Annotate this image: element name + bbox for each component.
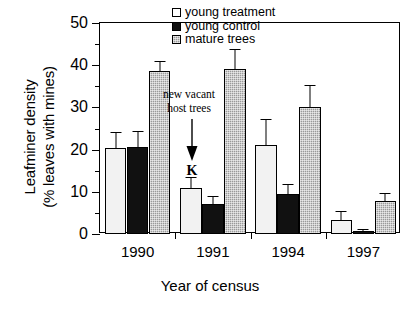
error-cap-young-treatment-1994 xyxy=(261,119,272,120)
bar-young-treatment-1997 xyxy=(331,220,353,234)
x-tick xyxy=(175,232,176,239)
error-bar-young-treatment-1994 xyxy=(266,119,267,144)
x-tick xyxy=(326,232,327,239)
legend-item-mature-trees: mature trees xyxy=(172,33,275,47)
x-tick xyxy=(251,232,252,239)
y-axis-title: Leafminer density (% leaves with mines) xyxy=(20,22,58,252)
y-tick-minor xyxy=(95,86,100,87)
error-cap-young-control-1990 xyxy=(132,131,143,132)
x-tick-label: 1991 xyxy=(196,243,229,260)
bar-mature-trees-1991 xyxy=(224,69,246,234)
error-bar-mature-trees-1991 xyxy=(234,49,235,68)
y-tick-minor xyxy=(95,129,100,130)
error-cap-young-treatment-1997 xyxy=(336,211,347,212)
y-tick-major xyxy=(92,65,100,66)
x-tick-label: 1994 xyxy=(271,243,304,260)
error-bar-young-control-1994 xyxy=(288,184,289,194)
down-arrow-icon xyxy=(185,119,199,163)
x-axis-title: Year of census xyxy=(0,277,420,294)
legend-label-young-treatment: young treatment xyxy=(185,6,275,20)
bar-young-control-1991 xyxy=(202,204,224,234)
y-tick-label: 40 xyxy=(70,57,88,73)
x-tick-label: 1997 xyxy=(347,243,380,260)
annotation-marker-k: K xyxy=(178,163,206,179)
error-bar-young-control-1991 xyxy=(212,196,213,204)
y-tick-minor xyxy=(95,171,100,172)
annotation-new-vacant-host-trees: new vacant host trees xyxy=(163,87,215,115)
bar-young-treatment-1991 xyxy=(180,188,202,234)
error-bar-young-treatment-1990 xyxy=(115,132,116,148)
error-bar-mature-trees-1994 xyxy=(310,85,311,107)
error-bar-young-control-1990 xyxy=(137,131,138,147)
y-tick-minor xyxy=(95,44,100,45)
y-tick-label: 10 xyxy=(70,184,88,200)
bar-young-treatment-1994 xyxy=(255,145,277,234)
x-tick-label: 1990 xyxy=(121,243,154,260)
legend-swatch-young-control xyxy=(172,22,181,31)
y-tick-major xyxy=(92,192,100,193)
error-cap-mature-trees-1997 xyxy=(380,193,391,194)
bar-mature-trees-1997 xyxy=(375,201,397,234)
y-tick-label: 30 xyxy=(70,99,88,115)
y-tick-label: 0 xyxy=(79,226,88,242)
bar-young-control-1994 xyxy=(277,194,299,234)
bar-young-treatment-1990 xyxy=(105,148,127,234)
y-tick-minor xyxy=(95,213,100,214)
bar-young-control-1990 xyxy=(127,147,149,234)
legend-item-young-control: young control xyxy=(172,20,275,34)
error-cap-young-treatment-1990 xyxy=(110,132,121,133)
bar-mature-trees-1994 xyxy=(299,107,321,234)
legend-swatch-mature-trees xyxy=(172,35,181,44)
legend-label-young-control: young control xyxy=(185,20,260,34)
chart-figure: Leafminer density (% leaves with mines) … xyxy=(0,0,420,309)
y-tick-major xyxy=(92,23,100,24)
error-cap-young-control-1991 xyxy=(207,196,218,197)
y-tick-label: 50 xyxy=(70,15,88,31)
legend-label-mature-trees: mature trees xyxy=(185,33,255,47)
plot-area: 01020304050 1990199119941997 new vacant … xyxy=(99,22,400,233)
y-tick-major xyxy=(92,234,100,235)
y-axis-title-line1: Leafminer density xyxy=(20,22,39,252)
legend-swatch-young-treatment xyxy=(172,8,181,17)
error-cap-mature-trees-1994 xyxy=(305,85,316,86)
bar-young-control-1997 xyxy=(353,231,375,234)
error-bar-mature-trees-1997 xyxy=(385,193,386,201)
chart-legend: young treatment young control mature tre… xyxy=(172,6,275,47)
annotation-line2: host trees xyxy=(163,101,215,115)
error-bar-mature-trees-1990 xyxy=(159,61,160,72)
error-cap-young-control-1997 xyxy=(358,229,369,230)
error-bar-young-treatment-1997 xyxy=(341,211,342,220)
annotation-line1: new vacant xyxy=(163,87,215,101)
error-cap-mature-trees-1990 xyxy=(154,61,165,62)
y-tick-major xyxy=(92,150,100,151)
y-axis-title-line2: (% leaves with mines) xyxy=(39,22,58,252)
y-tick-major xyxy=(92,107,100,108)
y-tick-label: 20 xyxy=(70,142,88,158)
error-cap-young-control-1994 xyxy=(283,184,294,185)
error-cap-mature-trees-1991 xyxy=(229,49,240,50)
legend-item-young-treatment: young treatment xyxy=(172,6,275,20)
